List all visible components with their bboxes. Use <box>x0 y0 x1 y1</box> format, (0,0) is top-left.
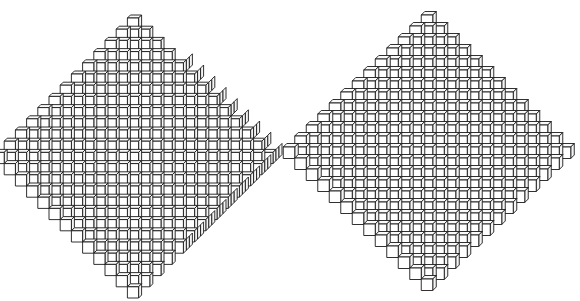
cube-front-face <box>352 213 364 225</box>
figure: Octahedral crystal with stepped faces (f… <box>0 0 580 301</box>
cube-side-face <box>257 166 260 180</box>
cube-side-face <box>223 87 226 101</box>
cube-side-face <box>279 143 282 157</box>
cube-side-face <box>223 199 226 213</box>
cube-side-face <box>245 177 248 191</box>
cube-side-face <box>189 233 192 247</box>
cube-front-face <box>60 220 71 231</box>
voxel-cube <box>15 172 29 186</box>
voxel-cube <box>71 228 85 242</box>
voxel-cube <box>4 161 18 175</box>
voxel-cube <box>116 273 130 287</box>
cube-front-face <box>329 191 341 203</box>
cube-side-face <box>234 188 237 202</box>
cube-front-face <box>341 202 353 214</box>
cube-side-face <box>257 121 260 135</box>
cube-front-face <box>71 231 82 242</box>
cube-front-face <box>49 208 60 219</box>
cube-front-face <box>105 264 116 275</box>
cube-front-face <box>0 152 4 163</box>
cube-front-face <box>421 279 433 291</box>
cube-side-face <box>234 99 237 113</box>
cube-front-face <box>398 257 410 269</box>
voxel-cube <box>49 205 63 219</box>
cube-front-face <box>116 276 127 287</box>
cube-front-face <box>410 268 422 280</box>
cube-front-face <box>283 147 295 159</box>
voxel-cube <box>127 284 141 298</box>
cube-front-face <box>387 246 399 258</box>
cube-side-face <box>189 54 192 68</box>
right-octahedron <box>283 12 574 291</box>
voxel-cube <box>83 239 97 253</box>
voxel-cube <box>27 183 41 197</box>
voxel-cube <box>105 261 119 275</box>
cube-front-face <box>306 169 318 181</box>
cube-side-face <box>268 132 271 146</box>
left-octahedron <box>0 15 282 298</box>
cube-side-face <box>268 155 271 169</box>
cube-front-face <box>364 224 376 236</box>
cube-side-face <box>212 211 215 225</box>
voxel-cube <box>94 250 108 264</box>
cube-side-face <box>245 110 248 124</box>
cube-front-face <box>375 235 387 247</box>
cube-front-face <box>295 158 307 170</box>
cube-front-face <box>127 287 138 298</box>
cube-side-face <box>201 65 204 79</box>
cube-side-face <box>212 76 215 90</box>
cube-front-face <box>27 186 38 197</box>
voxel-cube <box>60 217 74 231</box>
voxel-cube <box>38 194 52 208</box>
cube-front-face <box>83 242 94 253</box>
cube-side-face <box>201 222 204 236</box>
voxel-cube <box>421 276 436 291</box>
figure-canvas <box>0 0 580 301</box>
cube-front-face <box>38 197 49 208</box>
cube-front-face <box>15 175 26 186</box>
cube-front-face <box>318 180 330 192</box>
cube-front-face <box>94 253 105 264</box>
cube-front-face <box>4 164 15 175</box>
